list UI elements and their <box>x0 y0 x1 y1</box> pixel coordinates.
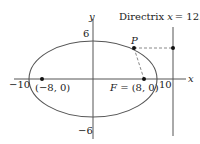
directrix-label: Directrixx= 12.5 <box>119 11 200 22</box>
right-focus-point <box>142 77 146 81</box>
point-p-label: P <box>130 35 138 46</box>
directrix-value: = 12.5 <box>175 11 200 22</box>
y-axis-label: y <box>88 11 95 22</box>
focus-coords: = (8, 0) <box>117 82 159 93</box>
left-focus-label: (−8, 0) <box>35 82 70 93</box>
ellipse-diagram: y x 6 −6 −10 10 (−8, 0) F = (8, 0) P Dir… <box>0 0 200 144</box>
y-tick-6: 6 <box>83 28 89 39</box>
directrix-var: x <box>167 11 173 22</box>
x-axis-label: x <box>188 73 194 84</box>
directrix-foot-point <box>171 46 175 50</box>
y-tick-neg6: −6 <box>78 125 93 136</box>
left-focus-point <box>40 77 44 81</box>
point-p <box>132 46 136 50</box>
right-focus-label: F = (8, 0) <box>109 82 159 93</box>
x-tick-neg10: −10 <box>9 79 30 90</box>
x-tick-10: 10 <box>159 79 172 90</box>
directrix-word: Directrix <box>119 11 165 22</box>
